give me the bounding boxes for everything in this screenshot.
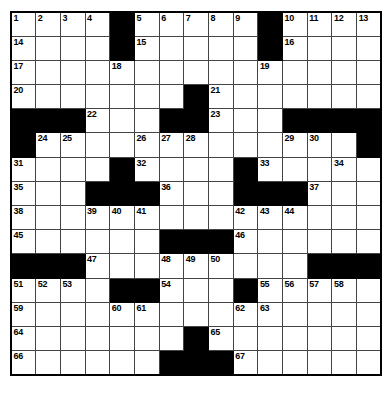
crossword-cell[interactable]: 32 bbox=[134, 157, 159, 181]
crossword-cell[interactable]: 25 bbox=[60, 133, 85, 157]
crossword-cell[interactable] bbox=[233, 133, 258, 157]
crossword-cell[interactable] bbox=[357, 302, 382, 326]
crossword-cell[interactable] bbox=[36, 206, 61, 230]
crossword-cell[interactable]: 64 bbox=[11, 326, 36, 350]
crossword-cell[interactable]: 27 bbox=[159, 133, 184, 157]
crossword-cell[interactable]: 36 bbox=[159, 181, 184, 205]
crossword-cell[interactable] bbox=[332, 60, 357, 84]
crossword-cell[interactable]: 39 bbox=[85, 206, 110, 230]
crossword-cell[interactable]: 17 bbox=[11, 60, 36, 84]
crossword-cell[interactable]: 42 bbox=[233, 206, 258, 230]
crossword-cell[interactable]: 63 bbox=[258, 302, 283, 326]
crossword-cell[interactable] bbox=[283, 85, 308, 109]
crossword-cell[interactable] bbox=[209, 157, 234, 181]
crossword-cell[interactable] bbox=[307, 206, 332, 230]
crossword-cell[interactable]: 56 bbox=[283, 278, 308, 302]
crossword-cell[interactable] bbox=[159, 36, 184, 60]
crossword-cell[interactable] bbox=[357, 351, 382, 375]
crossword-cell[interactable] bbox=[85, 326, 110, 350]
crossword-cell[interactable] bbox=[36, 181, 61, 205]
crossword-cell[interactable] bbox=[283, 302, 308, 326]
crossword-cell[interactable] bbox=[85, 36, 110, 60]
crossword-cell[interactable]: 30 bbox=[307, 133, 332, 157]
crossword-cell[interactable] bbox=[233, 36, 258, 60]
crossword-cell[interactable] bbox=[60, 85, 85, 109]
crossword-cell[interactable] bbox=[332, 230, 357, 254]
crossword-cell[interactable] bbox=[85, 133, 110, 157]
crossword-cell[interactable] bbox=[209, 60, 234, 84]
crossword-cell[interactable]: 10 bbox=[283, 12, 308, 36]
crossword-cell[interactable]: 40 bbox=[110, 206, 135, 230]
crossword-cell[interactable] bbox=[233, 85, 258, 109]
crossword-cell[interactable] bbox=[134, 230, 159, 254]
crossword-cell[interactable] bbox=[184, 206, 209, 230]
crossword-cell[interactable] bbox=[85, 278, 110, 302]
crossword-cell[interactable] bbox=[60, 326, 85, 350]
crossword-cell[interactable]: 23 bbox=[209, 109, 234, 133]
crossword-cell[interactable] bbox=[159, 60, 184, 84]
crossword-cell[interactable]: 53 bbox=[60, 278, 85, 302]
crossword-cell[interactable] bbox=[307, 302, 332, 326]
crossword-cell[interactable] bbox=[184, 60, 209, 84]
crossword-cell[interactable]: 5 bbox=[134, 12, 159, 36]
crossword-cell[interactable]: 44 bbox=[283, 206, 308, 230]
crossword-cell[interactable]: 34 bbox=[332, 157, 357, 181]
crossword-cell[interactable] bbox=[283, 351, 308, 375]
crossword-cell[interactable]: 57 bbox=[307, 278, 332, 302]
crossword-cell[interactable]: 7 bbox=[184, 12, 209, 36]
crossword-cell[interactable] bbox=[307, 85, 332, 109]
crossword-cell[interactable] bbox=[258, 351, 283, 375]
crossword-cell[interactable] bbox=[332, 206, 357, 230]
crossword-cell[interactable] bbox=[60, 36, 85, 60]
crossword-cell[interactable] bbox=[36, 351, 61, 375]
crossword-cell[interactable] bbox=[110, 326, 135, 350]
crossword-cell[interactable]: 45 bbox=[11, 230, 36, 254]
crossword-cell[interactable]: 61 bbox=[134, 302, 159, 326]
crossword-cell[interactable] bbox=[233, 326, 258, 350]
crossword-cell[interactable] bbox=[85, 351, 110, 375]
crossword-cell[interactable] bbox=[357, 326, 382, 350]
crossword-cell[interactable] bbox=[184, 157, 209, 181]
crossword-cell[interactable]: 21 bbox=[209, 85, 234, 109]
crossword-cell[interactable] bbox=[60, 302, 85, 326]
crossword-grid[interactable]: 1234567891011121314151617181920212223242… bbox=[10, 11, 382, 376]
crossword-cell[interactable]: 18 bbox=[110, 60, 135, 84]
crossword-cell[interactable]: 6 bbox=[159, 12, 184, 36]
crossword-cell[interactable]: 67 bbox=[233, 351, 258, 375]
crossword-cell[interactable] bbox=[134, 60, 159, 84]
crossword-cell[interactable]: 31 bbox=[11, 157, 36, 181]
crossword-cell[interactable] bbox=[307, 326, 332, 350]
crossword-cell[interactable] bbox=[36, 36, 61, 60]
crossword-cell[interactable] bbox=[258, 230, 283, 254]
crossword-cell[interactable] bbox=[357, 157, 382, 181]
crossword-cell[interactable]: 1 bbox=[11, 12, 36, 36]
crossword-cell[interactable] bbox=[60, 157, 85, 181]
crossword-cell[interactable] bbox=[283, 60, 308, 84]
crossword-cell[interactable]: 49 bbox=[184, 254, 209, 278]
crossword-cell[interactable] bbox=[60, 230, 85, 254]
crossword-cell[interactable] bbox=[209, 278, 234, 302]
crossword-cell[interactable]: 33 bbox=[258, 157, 283, 181]
crossword-cell[interactable]: 46 bbox=[233, 230, 258, 254]
crossword-cell[interactable]: 54 bbox=[159, 278, 184, 302]
crossword-cell[interactable] bbox=[283, 157, 308, 181]
crossword-cell[interactable]: 50 bbox=[209, 254, 234, 278]
crossword-cell[interactable] bbox=[85, 157, 110, 181]
crossword-cell[interactable] bbox=[258, 109, 283, 133]
crossword-cell[interactable] bbox=[233, 109, 258, 133]
crossword-cell[interactable] bbox=[110, 85, 135, 109]
crossword-cell[interactable] bbox=[307, 36, 332, 60]
crossword-cell[interactable]: 60 bbox=[110, 302, 135, 326]
crossword-cell[interactable]: 66 bbox=[11, 351, 36, 375]
crossword-cell[interactable] bbox=[134, 351, 159, 375]
crossword-cell[interactable]: 26 bbox=[134, 133, 159, 157]
crossword-cell[interactable]: 24 bbox=[36, 133, 61, 157]
crossword-cell[interactable] bbox=[357, 181, 382, 205]
crossword-cell[interactable]: 62 bbox=[233, 302, 258, 326]
crossword-cell[interactable]: 41 bbox=[134, 206, 159, 230]
crossword-cell[interactable]: 8 bbox=[209, 12, 234, 36]
crossword-cell[interactable] bbox=[184, 181, 209, 205]
crossword-cell[interactable] bbox=[209, 302, 234, 326]
crossword-cell[interactable] bbox=[134, 254, 159, 278]
crossword-cell[interactable] bbox=[357, 206, 382, 230]
